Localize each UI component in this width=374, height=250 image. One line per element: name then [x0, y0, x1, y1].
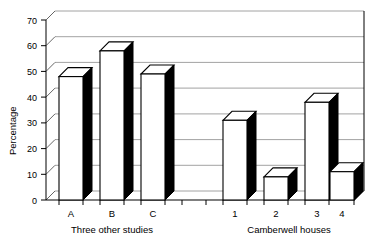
x-tick-label-c: C [150, 208, 157, 219]
chart-svg: 70 60 50 40 30 20 10 0 Percentage [0, 0, 374, 250]
y-tick-label-30: 30 [27, 118, 37, 128]
bar-1 [223, 111, 256, 200]
x-tick-label-a: A [68, 208, 75, 219]
y-tick-label-50: 50 [27, 67, 37, 77]
group-label-three-other-studies: Three other studies [71, 224, 153, 235]
y-tick-label-60: 60 [27, 41, 37, 51]
y-tick-label-40: 40 [27, 93, 37, 103]
y-axis-ticks [41, 20, 46, 200]
y-tick-label-20: 20 [27, 144, 37, 154]
x-tick-label-b: B [109, 208, 115, 219]
y-axis-title: Percentage [7, 106, 18, 155]
group-label-camberwell-houses: Camberwell houses [247, 224, 331, 235]
y-axis-title-text: Percentage [7, 106, 18, 155]
x-tick-label-2: 2 [273, 208, 278, 219]
x-axis-group-labels: Three other studies Camberwell houses [71, 224, 331, 235]
y-tick-label-10: 10 [27, 170, 37, 180]
x-axis-ticks [59, 200, 354, 205]
y-tick-label-0: 0 [32, 196, 37, 206]
bar-2 [264, 168, 297, 200]
bar-4 [330, 163, 363, 200]
x-tick-label-4: 4 [339, 208, 344, 219]
x-axis-tick-labels: A B C 1 2 3 4 [68, 208, 345, 219]
bar-A [59, 68, 92, 200]
y-axis-tick-labels: 70 60 50 40 30 20 10 0 [27, 16, 37, 206]
x-tick-label-3: 3 [314, 208, 319, 219]
y-tick-label-70: 70 [27, 16, 37, 26]
x-tick-label-1: 1 [232, 208, 237, 219]
bar-B [100, 42, 133, 200]
bar-C [141, 65, 174, 200]
bar-chart: 70 60 50 40 30 20 10 0 Percentage [0, 0, 374, 250]
